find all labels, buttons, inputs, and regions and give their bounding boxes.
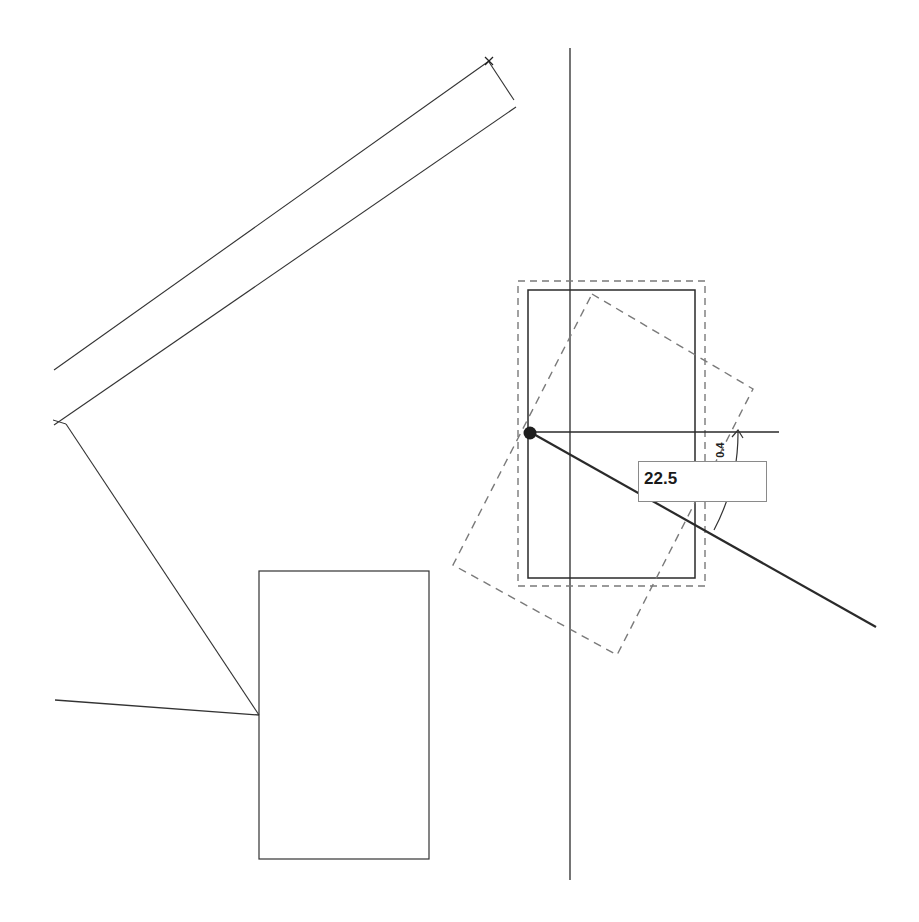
drawing-canvas[interactable] bbox=[0, 0, 919, 922]
wall-upper-line[interactable] bbox=[54, 61, 489, 370]
diagonal-line[interactable] bbox=[66, 424, 259, 715]
selection-bounding-box bbox=[518, 281, 705, 586]
wall-lower-line[interactable] bbox=[54, 107, 516, 425]
left-line[interactable] bbox=[55, 700, 259, 715]
endpoint-marker-icon bbox=[485, 57, 493, 65]
lower-rectangle[interactable] bbox=[259, 571, 429, 859]
rotation-angle-input[interactable]: 22.5 bbox=[638, 461, 767, 502]
rotation-angle-value: 22.5 bbox=[644, 469, 677, 488]
wall-end-cap[interactable] bbox=[489, 62, 514, 100]
angle-dimension-label: 0.4 bbox=[714, 442, 726, 457]
rotation-pivot-point[interactable] bbox=[524, 427, 537, 440]
selected-rectangle[interactable] bbox=[528, 290, 695, 578]
